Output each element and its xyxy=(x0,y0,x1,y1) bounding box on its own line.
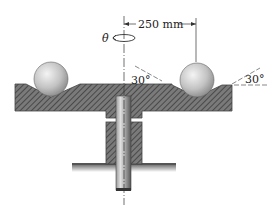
right-angle-label: 30° xyxy=(245,73,265,86)
left-ball xyxy=(34,62,68,96)
angular-rate-label: θ̇ xyxy=(102,32,109,45)
right-ball xyxy=(180,63,214,97)
radius-dimension-label: 250 mm xyxy=(138,18,184,31)
shaft xyxy=(116,96,131,191)
left-angle-label: 30° xyxy=(131,74,151,87)
diagram-canvas: θ̇ 250 mm 30° 30° xyxy=(0,0,278,213)
